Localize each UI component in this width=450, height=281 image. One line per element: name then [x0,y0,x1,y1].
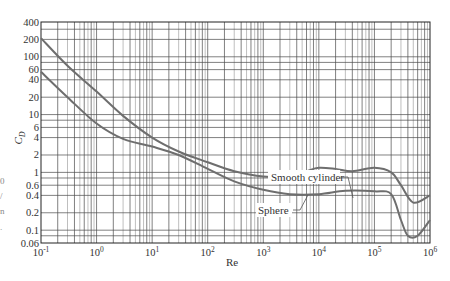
y-tick-label: 4 [34,132,40,143]
y-axis-label-sub: D [18,131,27,138]
sphere-label: Sphere [258,204,289,216]
y-axis-label: CD [12,131,27,144]
x-tick-label: 104 [312,245,327,258]
x-tick-label: 105 [367,245,382,258]
y-tick-label: 20 [29,92,40,103]
x-tick-label: 106 [423,245,438,258]
x-tick-label: 10-1 [33,245,50,258]
y-tick-label: 100 [23,51,39,62]
smooth-cylinder-label: Smooth cylinder [271,171,344,183]
margin-fragment: . [0,222,2,232]
drag-coefficient-chart: 4002001006040201064210.60.40.20.10.06 10… [0,0,450,281]
x-tick-label: 100 [89,245,104,258]
x-axis-label: Re [226,256,238,268]
x-tick-label: 103 [256,245,271,258]
y-tick-label: 200 [23,34,39,45]
y-tick-label: 40 [29,74,40,85]
y-tick-label: 400 [23,17,39,28]
x-tick-label: 102 [201,245,216,258]
y-tick-label: 0.4 [26,190,40,201]
annotations: Smooth cylinderSphere [256,170,353,217]
margin-fragment: 0 [0,176,5,186]
svg-text:CD: CD [12,131,27,144]
y-tick-label: 0.1 [26,225,39,236]
y-tick-label: 2 [34,149,39,160]
y-tick-label: 10 [29,109,40,120]
y-tick-label: 0.2 [26,207,39,218]
margin-fragment: n [0,206,5,216]
grid [41,22,430,243]
y-tick-label: 1 [34,167,39,178]
sphere-leader [293,195,308,210]
margin-fragment: / [0,191,3,201]
x-tick-label: 101 [145,245,160,258]
